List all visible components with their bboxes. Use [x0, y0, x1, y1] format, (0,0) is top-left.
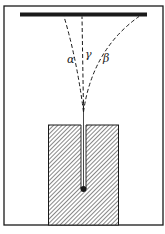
gamma-ray-path — [82, 17, 84, 111]
radiation-diagram: α γ β — [0, 0, 165, 234]
detector-plate — [20, 13, 147, 17]
alpha-label: α — [67, 53, 75, 66]
beta-label: β — [102, 52, 109, 65]
gamma-label: γ — [85, 48, 92, 61]
beta-ray-path — [84, 17, 140, 113]
